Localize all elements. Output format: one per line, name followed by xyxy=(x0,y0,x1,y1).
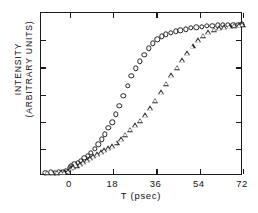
data-point-triangle xyxy=(168,73,174,78)
data-point-circle xyxy=(204,23,209,28)
data-point-triangle xyxy=(200,33,206,38)
data-point-circle xyxy=(188,25,193,30)
data-point-triangle xyxy=(240,22,246,27)
data-point-circle xyxy=(199,24,204,29)
data-point-circle xyxy=(92,146,97,151)
data-point-triangle xyxy=(147,106,153,111)
data-point-circle xyxy=(56,169,61,174)
data-point-circle xyxy=(215,23,220,28)
y-tick-left xyxy=(41,149,46,150)
data-point-circle xyxy=(48,169,53,174)
data-point-circle xyxy=(106,125,111,130)
data-point-circle xyxy=(178,28,183,33)
data-point-triangle xyxy=(122,132,128,137)
data-point-triangle xyxy=(227,24,233,29)
x-tick-top xyxy=(243,13,244,18)
data-point-triangle xyxy=(158,89,164,94)
data-point-circle xyxy=(133,66,138,71)
data-point-circle xyxy=(82,155,87,160)
figure-canvas: INTENSITY (ARBITRARY UNITS) T (psec) 018… xyxy=(0,0,258,213)
x-tick-top xyxy=(113,13,114,18)
data-point-circle xyxy=(220,22,225,27)
data-point-triangle xyxy=(118,136,124,141)
data-point-circle xyxy=(96,142,101,147)
data-point-triangle xyxy=(221,24,227,29)
data-point-circle xyxy=(117,103,122,108)
data-point-triangle xyxy=(142,113,148,118)
y-tick-left xyxy=(41,95,46,96)
data-point-triangle xyxy=(163,81,169,86)
data-point-circle xyxy=(159,34,164,39)
data-point-circle xyxy=(173,29,178,34)
y-tick-right xyxy=(236,122,241,123)
data-point-triangle xyxy=(84,158,90,163)
data-point-circle xyxy=(52,170,57,175)
data-point-triangle xyxy=(87,156,93,161)
data-point-triangle xyxy=(98,149,104,154)
data-point-circle xyxy=(163,32,168,37)
data-point-triangle xyxy=(174,65,180,70)
y-tick-right xyxy=(236,149,241,150)
data-point-triangle xyxy=(211,27,217,32)
data-point-circle xyxy=(71,162,76,167)
data-point-triangle xyxy=(70,164,76,169)
y-axis-label-line2: (ARBITRARY UNITS) xyxy=(24,20,35,117)
x-tick-bottom xyxy=(70,169,71,174)
data-point-circle xyxy=(142,52,147,57)
x-tick-label: 72 xyxy=(236,178,247,189)
x-tick-top xyxy=(200,13,201,18)
data-point-circle xyxy=(121,93,126,98)
data-point-triangle xyxy=(184,50,190,55)
x-tick-label: 54 xyxy=(193,178,204,189)
data-point-circle xyxy=(235,22,240,27)
data-point-circle xyxy=(43,170,48,175)
data-point-triangle xyxy=(152,98,158,103)
plot-area xyxy=(41,13,241,174)
data-point-circle xyxy=(109,119,114,124)
data-point-circle xyxy=(239,22,244,27)
data-point-circle xyxy=(78,158,83,163)
data-point-circle xyxy=(194,24,199,29)
data-point-circle xyxy=(63,169,68,174)
data-point-triangle xyxy=(58,170,64,175)
data-point-triangle xyxy=(77,161,83,166)
y-tick-right xyxy=(236,67,241,68)
y-axis-label: INTENSITY (ARBITRARY UNITS) xyxy=(7,0,41,139)
data-point-circle xyxy=(155,37,160,42)
data-point-triangle xyxy=(205,29,211,34)
data-point-circle xyxy=(102,131,107,136)
data-point-triangle xyxy=(109,144,115,149)
data-point-circle xyxy=(183,26,188,31)
data-point-circle xyxy=(113,112,118,117)
data-point-triangle xyxy=(54,170,60,175)
x-tick-top xyxy=(156,13,157,18)
data-point-circle xyxy=(225,22,230,27)
data-point-triangle xyxy=(132,123,138,128)
x-tick-bottom xyxy=(200,169,201,174)
y-tick-left xyxy=(41,122,46,123)
data-point-triangle xyxy=(236,22,242,27)
data-point-triangle xyxy=(101,147,107,152)
x-tick-top xyxy=(70,13,71,18)
x-tick-bottom xyxy=(156,169,157,174)
data-point-triangle xyxy=(44,170,50,175)
data-point-circle xyxy=(129,73,134,78)
data-point-circle xyxy=(168,30,173,35)
y-axis-label-line1: INTENSITY xyxy=(13,43,24,96)
data-point-circle xyxy=(210,23,215,28)
y-tick-right xyxy=(236,95,241,96)
data-point-circle xyxy=(99,137,104,142)
data-point-triangle xyxy=(231,23,237,28)
data-point-triangle xyxy=(114,140,120,145)
data-point-circle xyxy=(60,169,65,174)
data-point-triangle xyxy=(179,58,185,63)
data-point-triangle xyxy=(216,26,222,31)
x-tick-label: 0 xyxy=(66,178,72,189)
data-point-triangle xyxy=(105,146,111,151)
data-point-circle xyxy=(85,153,90,158)
x-tick-label: 36 xyxy=(150,178,161,189)
data-point-triangle xyxy=(195,38,201,43)
data-point-circle xyxy=(125,83,130,88)
data-point-triangle xyxy=(80,159,86,164)
y-tick-left xyxy=(41,40,46,41)
